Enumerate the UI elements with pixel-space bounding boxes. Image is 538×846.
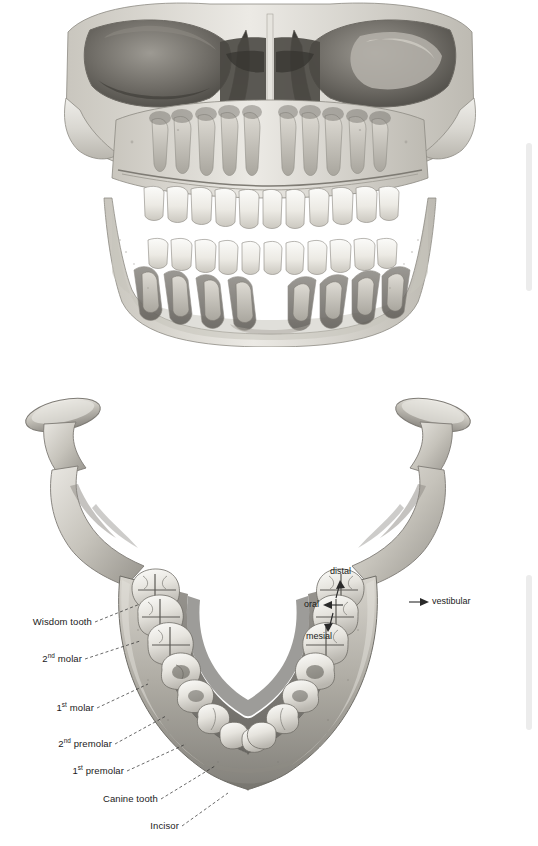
label-wisdom-tooth: Wisdom tooth bbox=[0, 617, 92, 627]
label-canine-tooth: Canine tooth bbox=[0, 794, 158, 804]
scrollbar-indicator-bottom[interactable] bbox=[526, 575, 532, 730]
label-oral: oral bbox=[304, 599, 319, 609]
label-first-molar: 1st molar bbox=[0, 703, 94, 713]
label-vestibular: vestibular bbox=[432, 596, 471, 606]
label-incisor: Incisor bbox=[0, 821, 179, 831]
label-mesial: mesial bbox=[306, 631, 332, 641]
label-distal: distal bbox=[330, 566, 351, 576]
scrollbar-indicator-top[interactable] bbox=[526, 143, 532, 291]
label-second-premolar: 2nd premolar bbox=[0, 739, 112, 749]
page-canvas: Wisdom tooth 2nd molar 1st molar 2nd pre… bbox=[0, 0, 538, 846]
skull-illustration bbox=[60, 2, 480, 347]
label-second-molar: 2nd molar bbox=[0, 654, 82, 664]
label-first-premolar: 1st premolar bbox=[0, 766, 124, 776]
